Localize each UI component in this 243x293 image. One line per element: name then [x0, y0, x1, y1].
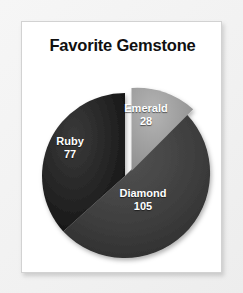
- pie-chart: Emerald 28 Ruby 77 Diamond 105: [22, 56, 223, 270]
- page-title: Favorite Gemstone: [22, 36, 223, 55]
- pie-chart-svg: [22, 56, 223, 270]
- chart-card: Favorite Gemstone: [21, 21, 222, 273]
- screenshot-root: Favorite Gemstone: [0, 0, 243, 293]
